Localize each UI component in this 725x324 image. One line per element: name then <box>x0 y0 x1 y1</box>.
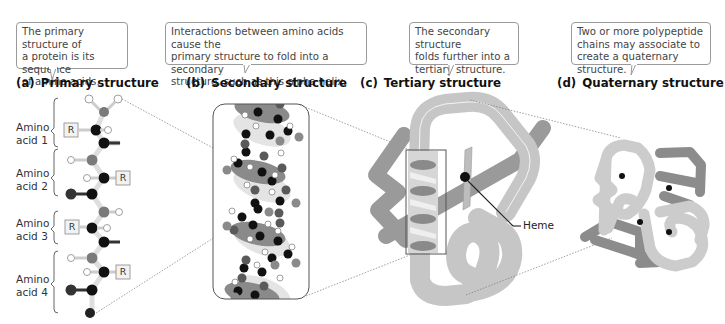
zoom-connectors-ab <box>96 99 228 313</box>
r-group-1: R <box>65 124 77 136</box>
amino-acid-brackets <box>51 98 58 313</box>
callout-tails <box>50 64 636 80</box>
r-group-4: R <box>117 266 129 278</box>
r-group-2: R <box>117 172 129 184</box>
alpha-helix <box>213 94 309 315</box>
heme-icon <box>460 172 470 182</box>
r-group-3: R <box>66 221 78 233</box>
tertiary-structure <box>376 102 543 296</box>
primary-chain <box>51 95 130 318</box>
heme-label: Heme <box>523 219 554 231</box>
quaternary-structure <box>585 145 704 266</box>
diagram-canvas <box>0 0 725 324</box>
